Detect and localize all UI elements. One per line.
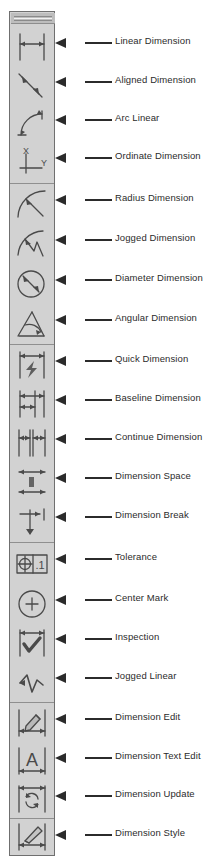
toolbar-button-dimension-update[interactable]	[10, 780, 54, 819]
leader-line	[85, 119, 112, 121]
callout-label: Dimension Space	[115, 470, 191, 481]
dimension-toolbar[interactable]: XY.1A	[9, 11, 55, 856]
toolbar-button-angular-dimension[interactable]	[10, 304, 54, 345]
callout-label: Continue Dimension	[115, 431, 202, 442]
arrow-head-icon	[55, 673, 66, 683]
toolbar-button-arc-linear[interactable]	[10, 104, 54, 142]
diameter-dimension-icon	[13, 264, 51, 304]
toolbar-button-aligned-dimension[interactable]	[10, 66, 54, 104]
callout-label: Dimension Edit	[115, 711, 180, 722]
linear-dimension-icon	[13, 27, 51, 66]
radius-dimension-icon	[13, 184, 51, 224]
toolbar-button-diameter-dimension[interactable]	[10, 264, 54, 304]
callout-label: Jogged Dimension	[115, 232, 195, 243]
toolbar-button-ordinate-dimension[interactable]: XY	[10, 142, 54, 184]
toolbar-button-dimension-edit[interactable]	[10, 703, 54, 742]
quick-dimension-icon	[13, 345, 51, 384]
toolbar-button-dimension-space[interactable]	[10, 462, 54, 501]
ordinate-dimension-icon: XY	[13, 142, 51, 183]
toolbar-button-jogged-dimension[interactable]	[10, 224, 54, 264]
continue-dimension-icon	[13, 423, 51, 462]
callout-label: Quick Dimension	[115, 353, 188, 364]
toolbar-button-radius-dimension[interactable]	[10, 184, 54, 224]
toolbar-button-baseline-dimension[interactable]	[10, 384, 54, 423]
leader-line	[85, 438, 112, 440]
callout-label: Arc Linear	[115, 112, 159, 123]
dimension-style-icon	[13, 819, 51, 855]
arrow-head-icon	[55, 315, 66, 325]
arrow-head-icon	[55, 512, 66, 522]
svg-text:A: A	[26, 750, 38, 770]
leader-line	[85, 718, 112, 720]
leader-line	[85, 360, 112, 362]
arrow-head-icon	[55, 791, 66, 801]
leader-line	[85, 399, 112, 401]
baseline-dimension-icon	[13, 384, 51, 423]
callout-label: Inspection	[115, 631, 159, 642]
callout-label: Ordinate Dimension	[115, 150, 201, 161]
toolbar-button-jogged-linear[interactable]	[10, 662, 54, 703]
leader-line	[85, 834, 112, 836]
toolbar-button-linear-dimension[interactable]	[10, 27, 54, 66]
leader-line	[85, 199, 112, 201]
callout-label: Radius Dimension	[115, 192, 194, 203]
toolbar-grip-handle[interactable]	[11, 13, 55, 24]
callout-label: Aligned Dimension	[115, 74, 196, 85]
arrow-head-icon	[55, 595, 66, 605]
arrow-head-icon	[55, 634, 66, 644]
dimension-update-icon	[13, 780, 51, 818]
callout-label: Linear Dimension	[115, 35, 191, 46]
leader-line	[85, 239, 112, 241]
arrow-head-icon	[55, 356, 66, 366]
leader-line	[85, 516, 112, 518]
arrow-head-icon	[55, 554, 66, 564]
svg-text:X: X	[23, 146, 29, 156]
grip-line	[14, 16, 52, 17]
dimension-break-icon	[13, 501, 51, 542]
toolbar-button-dimension-text-edit[interactable]: A	[10, 742, 54, 780]
toolbar-button-continue-dimension[interactable]	[10, 423, 54, 462]
svg-text:Y: Y	[41, 158, 47, 168]
callout-label: Dimension Break	[115, 509, 189, 520]
arrow-head-icon	[55, 235, 66, 245]
toolbar-button-center-mark[interactable]	[10, 584, 54, 623]
toolbar-button-quick-dimension[interactable]	[10, 345, 54, 384]
leader-line	[85, 599, 112, 601]
arrow-head-icon	[55, 830, 66, 840]
arrow-head-icon	[55, 77, 66, 87]
leader-line	[85, 42, 112, 44]
arrow-head-icon	[55, 395, 66, 405]
callout-label: Diameter Dimension	[115, 272, 203, 283]
arrow-head-icon	[55, 195, 66, 205]
callout-label: Angular Dimension	[115, 312, 197, 323]
leader-line	[85, 558, 112, 560]
arrow-head-icon	[55, 275, 66, 285]
leader-line	[85, 477, 112, 479]
dimension-space-icon	[13, 462, 51, 501]
toolbar-button-inspection[interactable]	[10, 623, 54, 662]
callout-label: Tolerance	[115, 551, 157, 562]
inspection-icon	[13, 623, 51, 662]
grip-line	[14, 18, 52, 19]
leader-line	[85, 157, 112, 159]
arrow-head-icon	[55, 434, 66, 444]
jogged-linear-icon	[13, 662, 51, 702]
toolbar-button-tolerance[interactable]: .1	[10, 543, 54, 584]
arrow-head-icon	[55, 753, 66, 763]
arrow-head-icon	[55, 115, 66, 125]
leader-line	[85, 279, 112, 281]
callout-label: Dimension Update	[115, 788, 195, 799]
screenshot-root: XY.1A Linear DimensionAligned DimensionA…	[0, 0, 209, 866]
arrow-head-icon	[55, 473, 66, 483]
callout-label: Jogged Linear	[115, 670, 177, 681]
arrow-head-icon	[55, 153, 66, 163]
arrow-head-icon	[55, 714, 66, 724]
svg-text:.1: .1	[35, 559, 44, 571]
jogged-dimension-icon	[13, 224, 51, 264]
toolbar-button-dimension-break[interactable]	[10, 501, 54, 543]
tolerance-icon: .1	[13, 543, 51, 584]
toolbar-button-dimension-style[interactable]	[10, 819, 54, 855]
center-mark-icon	[13, 584, 51, 623]
leader-line	[85, 319, 112, 321]
leader-line	[85, 638, 112, 640]
